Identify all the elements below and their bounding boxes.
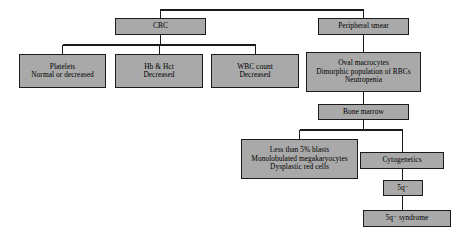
node-5q-minus[interactable]: 5q⁻: [383, 180, 423, 196]
node-cbc[interactable]: CBC: [115, 18, 206, 35]
node-cytogenetics-line-0: Cytogenetics: [382, 156, 421, 164]
node-less-than-5-blasts-line-2: Dysplastic red cells: [270, 163, 329, 171]
node-wbc-count[interactable]: WBC count Decreased: [211, 54, 299, 88]
node-peripheral-smear-line-0: Peripheral smear: [338, 22, 389, 30]
node-oval-macrocytes[interactable]: Oval macrocytes Dimorphic population of …: [306, 52, 421, 92]
node-hb-hct-line-1: Decreased: [143, 71, 174, 79]
node-platelets[interactable]: Platelets Normal or decreased: [19, 54, 106, 88]
node-bone-marrow-line-0: Bone marrow: [343, 108, 384, 116]
node-5q-minus-line-0: 5q⁻: [397, 184, 408, 192]
connector-layer: [0, 0, 473, 241]
node-cbc-line-0: CBC: [153, 22, 168, 30]
node-cytogenetics[interactable]: Cytogenetics: [360, 152, 444, 169]
node-oval-macrocytes-line-2: Neutropenia: [345, 76, 382, 84]
node-bone-marrow[interactable]: Bone marrow: [318, 104, 409, 120]
node-5q-minus-syndrome[interactable]: 5q⁻ syndrome: [363, 210, 451, 227]
node-peripheral-smear[interactable]: Peripheral smear: [318, 18, 409, 35]
connector-root-to-cbc-and-smear: [161, 10, 364, 18]
node-wbc-count-line-1: Decreased: [239, 71, 270, 79]
node-less-than-5-blasts[interactable]: Less than 5% blasts Monolobulated megaka…: [241, 139, 358, 179]
node-platelets-line-1: Normal or decreased: [31, 71, 94, 79]
node-5q-minus-syndrome-line-0: 5q⁻ syndrome: [386, 214, 429, 222]
node-hb-hct[interactable]: Hb & Hct Decreased: [115, 54, 203, 88]
flowchart-diagram: CBC Peripheral smear Platelets Normal or…: [0, 0, 473, 241]
